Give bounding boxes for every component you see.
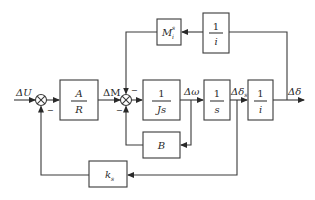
svg-text:s: s (172, 24, 175, 31)
summing-junction-2 (121, 95, 132, 106)
ratio-block-forward-1-over-i: 1 i (248, 80, 273, 120)
svg-text:i: i (172, 33, 174, 40)
svg-text:R: R (74, 104, 83, 115)
ratio-block-feedback-1-over-i: 1 i (203, 13, 229, 53)
block-diagram: ΔU − A R ΔM − − 1 Js Δω 1 s (0, 0, 315, 200)
inertia-block-1-over-Js: 1 Js (143, 80, 180, 120)
integrator-block-1-over-s: 1 s (204, 80, 230, 120)
svg-text:B: B (157, 140, 165, 151)
svg-text:1: 1 (213, 21, 219, 32)
sum2-bottom-minus-sign: − (116, 106, 123, 115)
svg-text:i: i (214, 36, 217, 47)
gain-block-A-over-R: A R (60, 80, 98, 120)
wire-speed-to-B (181, 100, 191, 145)
svg-text:1: 1 (158, 88, 164, 99)
back-emf-block-ks: k s (89, 161, 127, 187)
damping-block-B: B (143, 132, 180, 158)
torque-label: ΔM (103, 87, 120, 98)
angle-s-label: Δδs (230, 86, 247, 98)
output-label: Δδ (287, 86, 301, 97)
svg-text:i: i (259, 104, 262, 115)
svg-text:A: A (74, 88, 82, 99)
load-torque-block-Mis: M s i (157, 19, 181, 45)
svg-text:s: s (111, 175, 114, 182)
wire-B-to-sum2 (126, 107, 143, 146)
speed-label: Δω (183, 86, 199, 97)
sum1-minus-sign: − (47, 106, 54, 115)
sum2-top-minus-sign: − (131, 86, 138, 95)
summing-junction-1 (36, 95, 47, 106)
svg-text:Js: Js (155, 104, 166, 115)
svg-text:1: 1 (214, 88, 220, 99)
input-label: ΔU (15, 87, 32, 98)
svg-text:s: s (214, 104, 219, 115)
svg-text:1: 1 (257, 88, 263, 99)
